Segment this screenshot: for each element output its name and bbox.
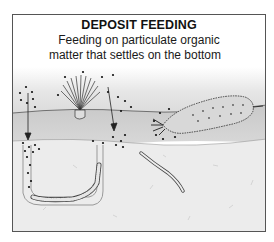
figure-frame: DEPOSIT FEEDING Feeding on particulate o…	[12, 14, 266, 232]
deposit-feeding-scene	[13, 15, 266, 232]
